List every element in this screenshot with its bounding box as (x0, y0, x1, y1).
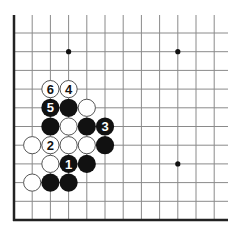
stone-disc (96, 136, 114, 154)
black-stone (60, 99, 78, 117)
white-stone: 4 (60, 81, 77, 98)
stone-disc (60, 118, 77, 135)
move-number: 4 (65, 82, 73, 97)
white-stone: 6 (42, 81, 59, 98)
black-stone: 5 (41, 99, 59, 117)
stone-disc (78, 155, 96, 173)
stone-disc (60, 174, 78, 192)
black-stone: 3 (96, 117, 114, 135)
black-stone (78, 155, 96, 173)
move-number: 5 (47, 100, 54, 115)
stone-disc (78, 117, 96, 135)
move-number: 2 (47, 138, 54, 153)
black-stone (78, 117, 96, 135)
white-stone (60, 118, 77, 135)
white-stone (78, 99, 95, 116)
black-stone (60, 174, 78, 192)
white-stone (42, 155, 59, 172)
move-number: 3 (101, 119, 108, 134)
white-stone: 2 (42, 137, 59, 154)
white-stone (24, 137, 41, 154)
stone-disc (42, 155, 59, 172)
stone-disc (60, 137, 77, 154)
stone-disc (24, 174, 41, 191)
stone-disc (24, 137, 41, 154)
black-stone (41, 174, 59, 192)
move-number: 6 (47, 82, 54, 97)
stone-disc (41, 174, 59, 192)
black-stone (96, 136, 114, 154)
white-stone (24, 174, 41, 191)
move-number: 1 (65, 157, 72, 172)
star-point-icon (66, 49, 71, 54)
stone-disc (60, 99, 78, 117)
stone-disc (78, 99, 95, 116)
black-stone (41, 117, 59, 135)
star-point-icon (175, 161, 180, 166)
star-point-icon (175, 49, 180, 54)
black-stone: 1 (60, 155, 78, 173)
go-board: 645321 (0, 0, 236, 232)
white-stone (60, 137, 77, 154)
stone-disc (41, 117, 59, 135)
white-stone (78, 137, 95, 154)
stone-disc (78, 137, 95, 154)
